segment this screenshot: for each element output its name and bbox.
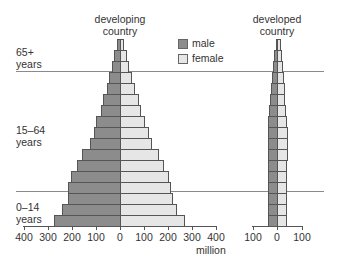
female-bar xyxy=(277,61,283,73)
female-bar xyxy=(277,105,286,117)
age-label-65-plus: 65+ years xyxy=(16,46,42,70)
male-bar xyxy=(101,105,121,117)
x-tick xyxy=(72,226,73,230)
female-bar xyxy=(277,83,285,95)
male-bar xyxy=(96,116,121,128)
male-bar xyxy=(68,193,121,205)
title-line: developing xyxy=(80,13,160,25)
female-bar xyxy=(120,193,173,205)
female-bar xyxy=(277,138,288,150)
female-bar xyxy=(120,182,171,194)
title-line: country xyxy=(242,25,312,37)
female-bar xyxy=(277,160,287,172)
legend-male-label: male xyxy=(192,37,215,49)
female-bar xyxy=(120,116,145,128)
x-tick xyxy=(302,226,303,230)
legend-female-label: female xyxy=(192,52,224,64)
unit-label: million xyxy=(196,244,226,256)
age-label-line: 15–64 xyxy=(16,124,45,136)
x-tick xyxy=(24,226,25,230)
legend-female-swatch xyxy=(178,54,188,64)
male-bar xyxy=(77,160,121,172)
legend-male-swatch xyxy=(178,39,188,49)
female-bar xyxy=(277,204,287,216)
female-bar xyxy=(120,105,141,117)
female-bar xyxy=(277,193,287,205)
male-bar xyxy=(82,149,121,161)
age-label-line: years xyxy=(16,213,42,225)
female-bar xyxy=(277,72,284,84)
developed-country-title: developed country xyxy=(242,13,312,37)
female-bar xyxy=(277,149,288,161)
male-bar xyxy=(71,171,121,183)
male-bar xyxy=(103,94,121,106)
male-bar xyxy=(62,204,121,216)
male-bar xyxy=(68,182,121,194)
female-bar xyxy=(120,171,169,183)
female-bar xyxy=(120,72,132,84)
x-tick xyxy=(120,226,121,230)
developing-country-title: developing country xyxy=(80,13,160,37)
female-bar xyxy=(120,138,152,150)
title-line: developed xyxy=(242,13,312,25)
age-label-0-14: 0–14 years xyxy=(16,201,42,225)
x-tick xyxy=(96,226,97,230)
female-bar xyxy=(277,116,287,128)
female-bar xyxy=(120,94,139,106)
female-bar xyxy=(277,50,282,62)
female-bar xyxy=(120,83,135,95)
x-tick xyxy=(48,226,49,230)
female-bar xyxy=(277,171,287,183)
female-bar xyxy=(120,61,129,73)
male-bar xyxy=(90,138,121,150)
title-line: country xyxy=(80,25,160,37)
age-label-line: 0–14 xyxy=(16,201,42,213)
x-tick-label: 100 xyxy=(287,231,317,243)
x-tick xyxy=(253,226,254,230)
female-bar xyxy=(277,182,287,194)
age-label-line: 65+ xyxy=(16,46,42,58)
female-bar xyxy=(277,127,288,139)
x-tick xyxy=(277,226,278,230)
age-label-15-64: 15–64 years xyxy=(16,124,45,148)
female-bar xyxy=(277,94,285,106)
female-bar xyxy=(277,39,281,51)
x-tick xyxy=(144,226,145,230)
male-bar xyxy=(94,127,121,139)
female-bar xyxy=(120,127,149,139)
x-tick xyxy=(216,226,217,230)
female-bar xyxy=(120,204,177,216)
age-label-line: years xyxy=(16,58,42,70)
x-tick-label: 400 xyxy=(201,231,231,243)
female-bar xyxy=(120,39,124,51)
female-bar xyxy=(120,149,159,161)
female-bar xyxy=(120,50,127,62)
female-bar xyxy=(120,160,164,172)
age-label-line: years xyxy=(16,136,45,148)
x-tick xyxy=(168,226,169,230)
male-bar xyxy=(107,83,121,95)
x-tick xyxy=(192,226,193,230)
